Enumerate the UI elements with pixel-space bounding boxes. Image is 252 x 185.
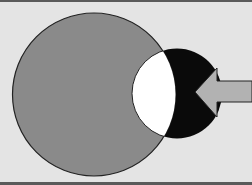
diagram-frame [0,0,252,185]
venn-diagram [0,0,252,185]
